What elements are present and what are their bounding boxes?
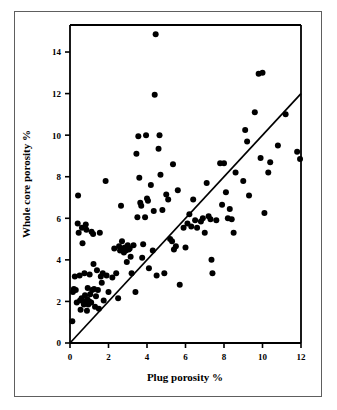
scatter-point bbox=[154, 272, 160, 278]
scatter-point bbox=[95, 287, 101, 293]
scatter-point bbox=[190, 197, 196, 203]
scatter-point bbox=[129, 270, 135, 276]
scatter-point bbox=[139, 255, 145, 261]
scatter-point bbox=[118, 203, 124, 209]
scatter-point bbox=[157, 132, 163, 138]
scatter-point bbox=[136, 175, 142, 181]
scatter-point bbox=[131, 242, 137, 248]
x-axis-ticks: 024681012 bbox=[68, 343, 306, 362]
scatter-point bbox=[78, 307, 84, 313]
scatter-point bbox=[261, 210, 267, 216]
scatter-point bbox=[267, 159, 273, 165]
scatter-point bbox=[148, 182, 154, 188]
scatter-point bbox=[169, 238, 175, 244]
scatter-point bbox=[208, 257, 214, 263]
scatter-point bbox=[233, 170, 239, 176]
x-tick-label-8: 8 bbox=[222, 352, 227, 362]
scatter-point bbox=[135, 133, 141, 139]
scatter-point bbox=[240, 178, 246, 184]
scatter-point bbox=[119, 238, 125, 244]
scatter-point bbox=[69, 318, 75, 324]
scatter-point bbox=[192, 217, 198, 223]
scatter-point bbox=[219, 202, 225, 208]
scatter-point bbox=[73, 287, 79, 293]
y-tick-label-8: 8 bbox=[57, 172, 62, 182]
scatter-point bbox=[188, 224, 194, 230]
scatter-point bbox=[244, 138, 250, 144]
scatter-point bbox=[76, 230, 82, 236]
scatter-point bbox=[177, 282, 183, 288]
x-tick-label-4: 4 bbox=[145, 352, 150, 362]
scatter-point bbox=[90, 231, 96, 237]
scatter-point bbox=[156, 146, 162, 152]
scatter-point bbox=[265, 170, 271, 176]
scatter-point bbox=[83, 227, 89, 233]
scatter-point bbox=[124, 259, 130, 265]
scatter-point bbox=[275, 143, 281, 149]
scatter-point bbox=[96, 306, 102, 312]
scatter-point bbox=[246, 192, 252, 198]
scatter-point bbox=[146, 265, 152, 271]
scatter-point bbox=[163, 191, 169, 197]
scatter-point bbox=[165, 197, 171, 203]
x-tick-label-12: 12 bbox=[297, 352, 307, 362]
scatter-point bbox=[75, 192, 81, 198]
scatter-point bbox=[90, 261, 96, 267]
scatter-point bbox=[283, 111, 289, 117]
scatter-point bbox=[150, 248, 156, 254]
scatter-point bbox=[258, 155, 264, 161]
scatter-point bbox=[152, 92, 158, 98]
y-tick-label-10: 10 bbox=[52, 131, 62, 141]
one-to-one-reference-line bbox=[70, 94, 301, 343]
scatter-point bbox=[213, 217, 219, 223]
scatter-point bbox=[200, 215, 206, 221]
y-tick-label-2: 2 bbox=[57, 297, 62, 307]
scatter-point bbox=[194, 225, 200, 231]
scatter-point bbox=[229, 216, 235, 222]
scatter-point bbox=[157, 172, 163, 178]
y-tick-label-4: 4 bbox=[57, 255, 62, 265]
x-tick-label-2: 2 bbox=[106, 352, 111, 362]
scatter-point bbox=[83, 222, 89, 228]
scatter-point bbox=[173, 243, 179, 249]
scatter-point bbox=[128, 254, 134, 260]
scatter-point bbox=[183, 244, 189, 250]
scatter-point bbox=[93, 293, 99, 299]
scatter-points-group bbox=[69, 31, 303, 324]
x-tick-label-10: 10 bbox=[258, 352, 268, 362]
scatter-point bbox=[140, 241, 146, 247]
scatter-point bbox=[252, 109, 258, 115]
scatter-point bbox=[132, 289, 138, 295]
scatter-point bbox=[134, 214, 140, 220]
scatter-point bbox=[99, 280, 105, 286]
scatter-point bbox=[115, 295, 121, 301]
x-tick-label-0: 0 bbox=[68, 352, 73, 362]
scatter-point bbox=[242, 127, 248, 133]
scatter-point bbox=[94, 267, 100, 273]
scatter-plot: 024681012 02468101214 Plug porosity % Wh… bbox=[0, 0, 337, 410]
scatter-point bbox=[153, 31, 159, 37]
scatter-point bbox=[151, 208, 157, 214]
y-axis-title: Whole core porosity % bbox=[20, 130, 32, 238]
y-tick-label-0: 0 bbox=[57, 338, 62, 348]
y-tick-label-14: 14 bbox=[52, 47, 62, 57]
scatter-point bbox=[209, 270, 215, 276]
scatter-point bbox=[138, 203, 144, 209]
scatter-point bbox=[87, 271, 93, 277]
reference-line bbox=[70, 94, 301, 343]
scatter-point bbox=[204, 180, 210, 186]
scatter-point bbox=[260, 70, 266, 76]
scatter-point bbox=[81, 270, 87, 276]
scatter-point bbox=[104, 272, 110, 278]
scatter-point bbox=[133, 151, 139, 157]
figure-root: 024681012 02468101214 Plug porosity % Wh… bbox=[0, 0, 337, 410]
scatter-point bbox=[103, 178, 109, 184]
scatter-point bbox=[231, 230, 237, 236]
scatter-point bbox=[170, 161, 176, 167]
scatter-point bbox=[186, 211, 192, 217]
scatter-point bbox=[142, 214, 148, 220]
scatter-point bbox=[97, 230, 103, 236]
y-axis-ticks: 02468101214 bbox=[52, 47, 70, 348]
scatter-point bbox=[294, 149, 300, 155]
scatter-point bbox=[106, 289, 112, 295]
